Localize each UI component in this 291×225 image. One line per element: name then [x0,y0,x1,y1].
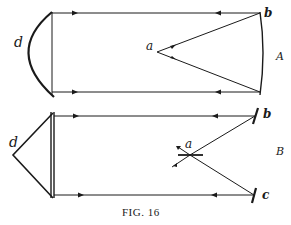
figure-caption: FIG. 16 [122,206,160,218]
label-b: b [263,107,271,121]
arrow-left-icon [215,90,221,95]
arrow-icon [170,56,176,60]
arrow-right-icon [72,11,78,16]
arrow-left-icon [212,114,218,119]
arrow-right-icon [78,193,84,198]
diagram-b: d a b c B [9,107,284,203]
label-b: b [264,6,272,20]
arrow-right-icon [72,90,78,95]
curved-mirror-b [260,12,263,95]
arrow-left-icon [215,11,221,16]
curved-mirror-d [28,12,54,97]
arrow-right-icon [73,114,79,119]
figure-16: d a b A d a b c B FIG. 16 [0,0,291,225]
label-a: a [185,137,192,151]
arrow-icon [170,45,176,50]
label-c: c [262,188,270,202]
arrow-left-icon [211,193,217,198]
ray-a-to-c [190,155,254,195]
label-d: d [9,134,18,150]
panel-label-b: B [275,145,284,158]
diagram-a: d a b A [14,6,284,97]
prism-d [13,113,53,198]
ray-b-to-a [190,116,255,155]
label-a: a [146,39,153,53]
panel-label-a: A [275,50,284,63]
label-d: d [14,34,23,50]
